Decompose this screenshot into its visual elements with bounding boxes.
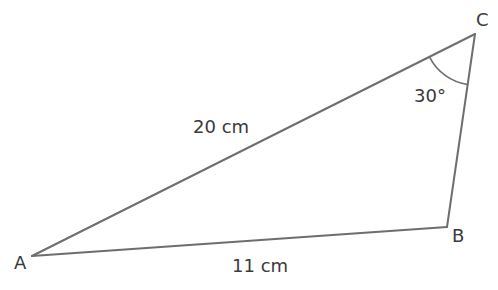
side-ac-length-label: 20 cm (193, 116, 249, 137)
vertex-a-label: A (14, 252, 27, 273)
side-bc (447, 34, 475, 227)
side-ab-length-label: 11 cm (232, 255, 288, 276)
angle-c-arc (430, 57, 468, 85)
side-ac (32, 34, 475, 256)
angle-c-label: 30° (414, 85, 446, 106)
side-ab (32, 227, 447, 256)
triangle-diagram: A B C 20 cm 11 cm 30° (0, 0, 498, 290)
vertex-c-label: C (476, 9, 489, 30)
vertex-b-label: B (452, 225, 464, 246)
